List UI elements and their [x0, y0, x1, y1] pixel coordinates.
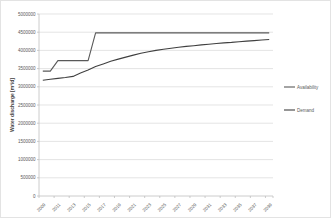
- series-line-availability: [43, 33, 269, 71]
- x-tick-label: 2015: [81, 202, 92, 213]
- y-tick-label: 0: [33, 194, 36, 199]
- legend-label-availability: Availability: [297, 85, 319, 90]
- x-tick-label: 2035: [232, 202, 243, 213]
- water-discharge-chart: 0500000100000015000002000000250000030000…: [0, 0, 331, 218]
- x-tick-label: 2025: [157, 202, 168, 213]
- x-tick-label: 2029: [187, 202, 198, 213]
- y-tick-label: 1500000: [18, 139, 36, 144]
- y-tick-label: 1000000: [18, 157, 36, 162]
- x-tick-label: 2021: [126, 202, 137, 213]
- x-tick-label: 2009: [36, 202, 47, 213]
- x-tick-label: 2027: [172, 202, 183, 213]
- x-tick-label: 2031: [202, 202, 213, 213]
- x-tick-label: 2019: [111, 202, 122, 213]
- line-chart-canvas: 0500000100000015000002000000250000030000…: [1, 1, 331, 218]
- y-tick-label: 3000000: [18, 84, 36, 89]
- y-tick-label: 5000000: [18, 12, 36, 17]
- series-line-demand: [43, 40, 269, 81]
- y-tick-label: 4500000: [18, 30, 36, 35]
- x-tick-label: 2017: [96, 202, 107, 213]
- y-axis-title: Water discharge [m³/d]: [9, 78, 15, 132]
- x-tick-label: 2023: [142, 202, 153, 213]
- x-tick-label: 2011: [51, 202, 62, 213]
- y-tick-label: 500000: [20, 175, 36, 180]
- x-tick-label: 2013: [66, 202, 77, 213]
- x-tick-label: 2039: [262, 202, 273, 213]
- y-tick-label: 3500000: [18, 66, 36, 71]
- y-tick-label: 2500000: [18, 103, 36, 108]
- legend-label-demand: Demand: [297, 108, 315, 113]
- y-tick-label: 2000000: [18, 121, 36, 126]
- x-tick-label: 2037: [247, 202, 258, 213]
- y-tick-label: 4000000: [18, 48, 36, 53]
- x-tick-label: 2033: [217, 202, 228, 213]
